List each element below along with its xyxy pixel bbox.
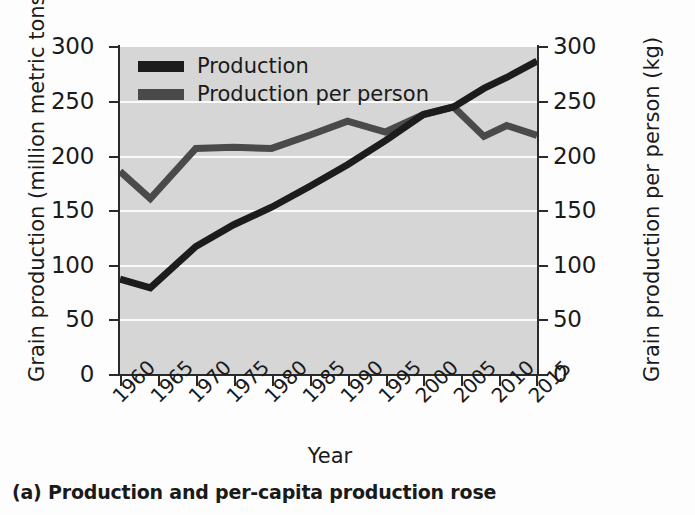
y-tick-right-250	[539, 101, 548, 103]
y-tick-left-0	[109, 374, 118, 376]
y-tick-label-right-150: 150	[553, 199, 596, 222]
legend-label-production: Production	[197, 56, 309, 77]
y-tick-label-left-50: 50	[65, 308, 94, 331]
legend-label-production-per-person: Production per person	[197, 84, 429, 105]
y-tick-label-left-100: 100	[51, 254, 94, 277]
y-axis-left-title: Grain production (million metric tons)	[25, 52, 49, 382]
y-tick-label-left-150: 150	[51, 199, 94, 222]
x-tick-label-1960: 1960	[109, 357, 158, 406]
y-tick-label-left-0: 0	[80, 363, 94, 386]
y-tick-right-300	[539, 46, 548, 48]
legend: Production Production per person	[138, 52, 429, 108]
y-tick-left-100	[109, 265, 118, 267]
y-tick-label-right-200: 200	[553, 145, 596, 168]
y-tick-right-150	[539, 210, 548, 212]
y-tick-left-150	[109, 210, 118, 212]
series-line-production-per-person	[120, 107, 537, 199]
y-axis-left-spine	[118, 45, 120, 376]
figure-caption: (a) Production and per-capita production…	[12, 481, 496, 503]
y-tick-left-200	[109, 156, 118, 158]
y-tick-left-250	[109, 101, 118, 103]
legend-item-production: Production	[138, 52, 429, 80]
y-tick-left-50	[109, 319, 118, 321]
y-tick-label-right-300: 300	[553, 35, 596, 58]
y-tick-label-left-250: 250	[51, 90, 94, 113]
y-tick-label-left-200: 200	[51, 145, 94, 168]
y-tick-right-100	[539, 265, 548, 267]
y-tick-label-right-100: 100	[553, 254, 596, 277]
legend-swatch-production-per-person	[138, 89, 184, 100]
legend-swatch-production	[138, 61, 184, 72]
x-axis-title: Year	[0, 444, 660, 468]
chart-figure: 300 250 200 150 100 50 0 300 250 200 150…	[0, 0, 695, 515]
legend-item-production-per-person: Production per person	[138, 80, 429, 108]
y-axis-right-title: Grain production per person (kg)	[640, 52, 664, 382]
y-tick-label-right-50: 50	[553, 308, 582, 331]
y-tick-right-50	[539, 319, 548, 321]
y-tick-right-200	[539, 156, 548, 158]
y-tick-label-right-250: 250	[553, 90, 596, 113]
y-tick-label-left-300: 300	[51, 35, 94, 58]
y-tick-left-300	[109, 46, 118, 48]
